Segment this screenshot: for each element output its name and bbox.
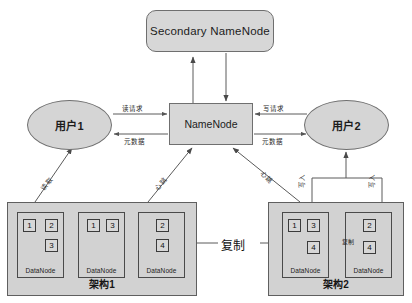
rack1-datanode-1[interactable]: 1 2 3 DataNode [17, 212, 64, 278]
rack-2: 1 3 4 DataNode 2 4 DataNode 架构2 [268, 202, 404, 296]
rack2-dn2-block-4: 4 [363, 241, 376, 254]
rack1-dn1-block-1: 1 [23, 219, 36, 232]
rack1-dn1-label: DataNode [18, 267, 63, 274]
rack1-dn3-block-2: 2 [156, 219, 169, 232]
rack1-datanode-3[interactable]: 2 4 DataNode [138, 212, 185, 278]
rack1-dn2-block-3: 3 [106, 219, 119, 232]
rack1-dn1-block-3: 3 [45, 239, 58, 252]
rack2-dn1-block-3: 3 [307, 219, 320, 232]
label-replicate-center: 复制 [221, 236, 245, 253]
rack1-dn1-block-2: 2 [45, 219, 58, 232]
rack1-dn2-block-1: 1 [87, 219, 100, 232]
rack1-dn3-label: DataNode [139, 267, 184, 274]
namenode-label: NameNode [184, 118, 237, 130]
label-write-in-left: 写入 [296, 174, 306, 188]
label-read-request: 读请求 [122, 103, 143, 113]
secondary-namenode-box[interactable]: Secondary NameNode [146, 10, 274, 52]
label-write-request: 写请求 [263, 103, 284, 113]
rack1-dn2-label: DataNode [79, 267, 124, 274]
user1-label: 用户1 [55, 117, 83, 133]
rack-2-label: 架构2 [269, 276, 403, 291]
namenode-box[interactable]: NameNode [169, 103, 253, 145]
rack1-datanode-2[interactable]: 1 3 DataNode [78, 212, 125, 278]
user1-ellipse[interactable]: 用户1 [27, 100, 112, 150]
hdfs-architecture-diagram: Secondary NameNode NameNode 用户1 用户2 1 2 … [0, 0, 412, 303]
rack2-dn1-block-4: 4 [307, 241, 320, 254]
rack2-dn2-block-2: 2 [363, 219, 376, 232]
rack2-dn1-label: DataNode [283, 267, 328, 274]
rack-1-label: 架构1 [8, 276, 196, 291]
secondary-namenode-label: Secondary NameNode [150, 25, 270, 37]
rack2-dn2-label: DataNode [346, 267, 391, 274]
edge-read-rack1-to-user1 [35, 148, 72, 202]
rack2-datanode-1[interactable]: 1 3 4 DataNode [282, 212, 329, 278]
user2-ellipse[interactable]: 用户2 [304, 100, 389, 150]
rack2-dn1-block-1: 1 [288, 219, 301, 232]
rack-1: 1 2 3 DataNode 1 3 DataNode 2 4 DataNode… [7, 202, 197, 296]
label-replicate-rack2: 复制 [342, 237, 354, 246]
rack1-dn3-block-4: 4 [156, 239, 169, 252]
label-metadata-left: 元数据 [124, 136, 145, 146]
user2-label: 用户2 [332, 117, 360, 133]
label-write-in-right: 写入 [366, 174, 376, 188]
edge-heartbeat-rack1-to-namenode [148, 148, 192, 202]
label-metadata-right: 元数据 [262, 136, 283, 146]
